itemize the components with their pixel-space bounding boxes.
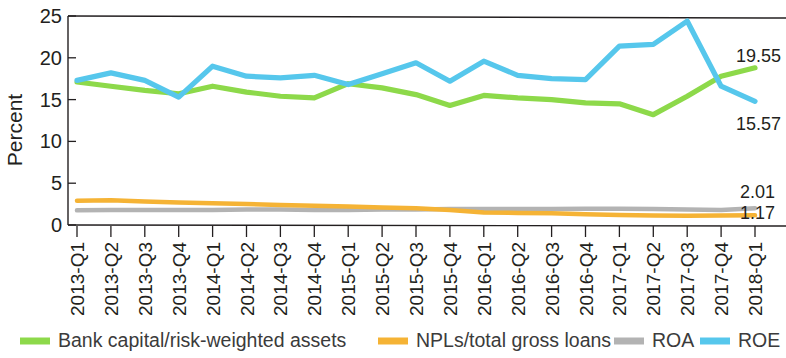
chart-container: Percent 0510152025 2013-Q12013-Q22013-Q3…: [0, 0, 786, 358]
plot-top-border: [68, 16, 786, 18]
end-label-2-01: 2.01: [740, 182, 775, 202]
x-tick-label-2016-Q3: 2016-Q3: [542, 242, 563, 316]
legend-label-roe: ROE: [738, 329, 780, 351]
x-tick-label-2013-Q2: 2013-Q2: [101, 242, 122, 316]
x-tick-label-2015-Q4: 2015-Q4: [440, 242, 461, 316]
x-tick-label-2018-Q1: 2018-Q1: [745, 242, 766, 316]
end-label-15-57: 15.57: [736, 114, 781, 134]
x-tick-label-2014-Q1: 2014-Q1: [203, 242, 224, 316]
y-tick-label-5: 5: [51, 172, 62, 194]
legend-label-bank-capital-risk-weighted-assets: Bank capital/risk-weighted assets: [58, 329, 347, 351]
chart-legend: Bank capital/risk-weighted assetsNPLs/to…: [20, 329, 780, 351]
x-tick-label-2015-Q3: 2015-Q3: [406, 242, 427, 316]
y-axis-tick-labels: 0510152025: [40, 5, 62, 236]
x-tick-label-2017-Q1: 2017-Q1: [609, 242, 630, 316]
x-tick-label-2014-Q3: 2014-Q3: [270, 242, 291, 316]
line-chart: Percent 0510152025 2013-Q12013-Q22013-Q3…: [0, 0, 786, 358]
end-label-1-17: 1.17: [740, 203, 775, 223]
x-tick-label-2013-Q4: 2013-Q4: [169, 242, 190, 316]
x-tick-label-2013-Q3: 2013-Q3: [135, 242, 156, 316]
x-axis-tick-labels: 2013-Q12013-Q22013-Q32013-Q42014-Q12014-…: [67, 242, 766, 316]
x-tick-label-2015-Q2: 2015-Q2: [372, 242, 393, 316]
legend-label-roa: ROA: [652, 329, 694, 351]
x-axis-line: [68, 225, 786, 226]
series-line-bank-capital-risk-weighted-assets: [77, 68, 755, 115]
x-tick-label-2016-Q1: 2016-Q1: [474, 242, 495, 316]
x-tick-label-2016-Q4: 2016-Q4: [576, 242, 597, 316]
y-tick-label-20: 20: [40, 47, 62, 69]
x-tick-label-2017-Q2: 2017-Q2: [643, 242, 664, 316]
y-axis-title: Percent: [3, 94, 26, 167]
end-label-19-55: 19.55: [736, 46, 781, 66]
x-tick-label-2017-Q4: 2017-Q4: [711, 242, 732, 316]
x-tick-label-2016-Q2: 2016-Q2: [508, 242, 529, 316]
x-axis-tick-marks: [77, 226, 755, 237]
y-tick-label-10: 10: [40, 130, 62, 152]
y-axis-tick-marks: [68, 16, 76, 225]
y-tick-label-15: 15: [40, 89, 62, 111]
y-tick-label-25: 25: [40, 5, 62, 27]
x-tick-label-2017-Q3: 2017-Q3: [677, 242, 698, 316]
series-group: [77, 21, 755, 216]
y-tick-label-0: 0: [51, 214, 62, 236]
x-tick-label-2013-Q1: 2013-Q1: [67, 242, 88, 316]
x-tick-label-2014-Q2: 2014-Q2: [237, 242, 258, 316]
x-tick-label-2014-Q4: 2014-Q4: [304, 242, 325, 316]
series-line-roe: [77, 21, 755, 101]
legend-label-npls-total-gross-loans: NPLs/total gross loans: [416, 329, 611, 351]
x-tick-label-2015-Q1: 2015-Q1: [338, 242, 359, 316]
